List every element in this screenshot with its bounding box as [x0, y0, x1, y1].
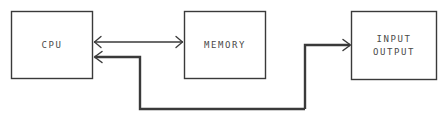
cpu-box[interactable] — [12, 12, 93, 79]
diagram-vector-layer — [0, 0, 446, 118]
bus-to-io-connector — [305, 40, 351, 110]
memory-box[interactable] — [185, 12, 266, 79]
input-output-box[interactable] — [352, 12, 437, 80]
block-diagram-canvas: CPU MEMORY INPUT OUTPUT — [0, 0, 446, 118]
cpu-memory-bus-connector — [94, 37, 183, 48]
bus-to-io-line — [305, 45, 350, 109]
